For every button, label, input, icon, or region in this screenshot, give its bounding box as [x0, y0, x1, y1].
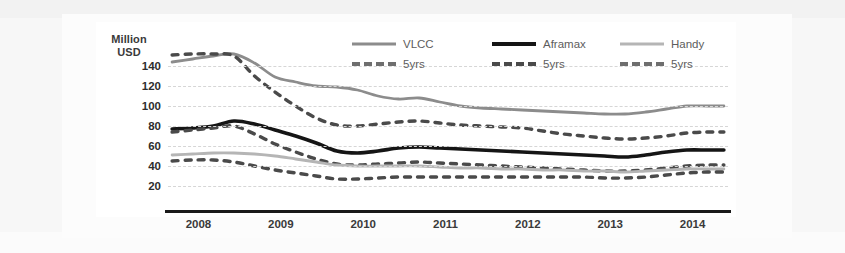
legend-item[interactable]: Aframax	[492, 38, 586, 50]
legend-item[interactable]: 5yrs	[620, 58, 693, 70]
series-line-handy-5yrs	[172, 160, 724, 179]
legend-item[interactable]: Handy	[620, 38, 704, 50]
x-axis-tick-label: 2008	[186, 218, 212, 230]
y-axis-tick-label: 60	[148, 140, 161, 152]
x-axis-tick-label: 2010	[350, 218, 376, 230]
legend-label: 5yrs	[403, 58, 425, 70]
legend-item[interactable]: VLCC	[352, 38, 434, 50]
y-axis-tick-label: 20	[148, 180, 161, 192]
gridline	[168, 146, 728, 147]
legend-swatch-icon	[620, 59, 664, 69]
legend-item[interactable]: 5yrs	[352, 58, 425, 70]
x-axis-tick-label: 2014	[680, 218, 706, 230]
y-axis-tick-label: 40	[148, 160, 161, 172]
legend-label: 5yrs	[671, 58, 693, 70]
gridline	[168, 106, 728, 107]
x-axis-tick-label: 2011	[433, 218, 458, 230]
y-axis-tick-label: 140	[142, 60, 161, 72]
y-axis-tick-label: 100	[142, 100, 161, 112]
y-axis-title: Million USD	[98, 33, 160, 58]
y-axis-tick-label: 80	[148, 120, 161, 132]
x-axis-tick-label: 2013	[597, 218, 623, 230]
legend-label: Handy	[671, 38, 704, 50]
x-axis-tick-label: 2009	[268, 218, 294, 230]
legend-swatch-icon	[352, 59, 396, 69]
gridline	[168, 86, 728, 87]
x-axis-line	[165, 210, 731, 213]
legend-label: VLCC	[403, 38, 434, 50]
legend-swatch-icon	[492, 39, 536, 49]
legend-swatch-icon	[492, 59, 536, 69]
gridline	[168, 126, 728, 127]
gridline	[168, 186, 728, 187]
legend-item[interactable]: 5yrs	[492, 58, 565, 70]
x-axis-tick-label: 2012	[515, 218, 541, 230]
legend-swatch-icon	[352, 39, 396, 49]
y-axis-title-line1: Million	[98, 33, 160, 46]
y-axis-title-line2: USD	[98, 46, 160, 59]
chart-legend: VLCCAframaxHandy5yrs5yrs5yrs	[352, 38, 712, 74]
gridline	[168, 166, 728, 167]
chart-figure: Million USD 14012010080604020 2008200920…	[0, 0, 845, 253]
legend-label: Aframax	[543, 38, 586, 50]
y-axis-tick-label: 120	[142, 80, 161, 92]
legend-swatch-icon	[620, 39, 664, 49]
legend-label: 5yrs	[543, 58, 565, 70]
